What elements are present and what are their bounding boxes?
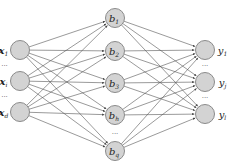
edge-hidden-0-to-output-1 (123, 24, 197, 76)
edge-input-2-to-hidden-1 (28, 57, 106, 107)
input-node-xd (11, 103, 30, 122)
edge-hidden-4-to-output-1 (123, 88, 197, 145)
neural-network-diagram: x1xixd······b1b2b3bhbq···y1yjyl······ (0, 0, 234, 164)
edge-input-2-to-hidden-4 (29, 116, 105, 147)
output-label-yj: yj (218, 77, 227, 90)
hidden-ellipsis-0: ··· (112, 130, 119, 138)
edge-hidden-0-to-output-0 (124, 21, 195, 46)
edge-input-1-to-hidden-0 (28, 24, 106, 76)
edge-input-0-to-hidden-1 (29, 50, 104, 51)
output-ellipsis-1: ··· (202, 94, 209, 102)
input-label-x1: x1 (0, 45, 8, 57)
input-ellipsis-0: ··· (1, 62, 8, 70)
output-label-y1: y1 (217, 45, 227, 57)
edge-input-0-to-hidden-0 (29, 21, 105, 47)
edge-input-1-to-hidden-1 (29, 54, 105, 78)
edge-input-2-to-hidden-3 (29, 112, 104, 114)
output-ellipsis-0: ··· (202, 62, 209, 70)
edge-hidden-3-to-output-2 (124, 114, 194, 115)
input-label-xd: xd (0, 107, 9, 119)
edge-input-1-to-hidden-4 (28, 87, 107, 145)
output-node-y1 (196, 41, 215, 60)
edge-hidden-1-to-output-0 (124, 50, 194, 51)
edge-input-2-to-hidden-2 (29, 86, 105, 109)
input-node-xi (11, 72, 30, 91)
labels: x1xixd······b1b2b3bhbq···y1yjyl······ (0, 13, 227, 159)
output-label-yl: yl (218, 109, 227, 121)
output-node-yj (196, 73, 215, 92)
input-node-x1 (11, 41, 30, 60)
edge-hidden-4-to-output-2 (124, 118, 196, 147)
output-node-yl (196, 105, 215, 124)
input-label-xi: xi (0, 76, 8, 88)
input-ellipsis-1: ··· (1, 93, 8, 101)
edge-input-2-to-hidden-0 (27, 25, 108, 105)
edge-hidden-0-to-output-2 (121, 25, 197, 106)
